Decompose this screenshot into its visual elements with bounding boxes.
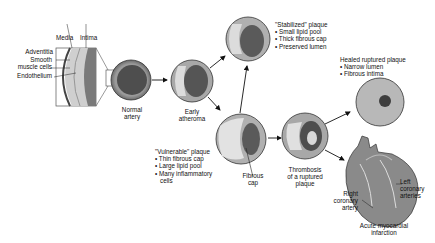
- label-media: Media: [56, 34, 73, 41]
- healed-bullet-1: Narrow lumen: [340, 63, 406, 70]
- healed-plaque-graphic: [356, 78, 404, 126]
- label-adventitia: Adventitia: [10, 48, 53, 55]
- right-coronary-line3: artery: [318, 204, 358, 211]
- stabilized-plaque-graphic: [226, 17, 270, 61]
- thrombosis-graphic: [282, 113, 328, 159]
- label-acute-mi: Acute myocardial infarction: [352, 222, 416, 236]
- label-vulnerable-plaque: "Vulnerable" plaque Thin fibrous cap Lar…: [155, 148, 212, 184]
- label-fibrous-cap: Fibrous cap: [231, 172, 275, 186]
- vulnerable-bullet-2: Large lipid pool: [155, 162, 212, 169]
- label-right-coronary: Right coronary artery: [318, 190, 358, 212]
- stabilized-bullet-3: Preserved lumen: [275, 43, 327, 50]
- atherosclerosis-diagram: Media Intima Adventitia Smooth muscle ce…: [0, 0, 435, 243]
- normal-line2: artery: [111, 113, 153, 120]
- vulnerable-bullet-3: Many inflammatory: [155, 170, 212, 177]
- inset-wall-section: [56, 48, 114, 106]
- label-endothelium: Endothelium: [5, 72, 52, 79]
- label-smooth-muscle-line1: Smooth: [5, 56, 52, 63]
- infarction-line2: infarction: [352, 229, 416, 236]
- healed-title: Healed ruptured plaque: [340, 56, 406, 63]
- left-coronary-line3: arteries: [400, 192, 425, 199]
- vulnerable-title: "Vulnerable" plaque: [155, 148, 212, 155]
- early-line2: atheroma: [170, 115, 214, 122]
- vulnerable-bullet-3-cont: cells: [155, 177, 212, 184]
- fibrous-cap-line1: Fibrous: [231, 172, 275, 179]
- stabilized-bullet-1: Small lipid pool: [275, 28, 327, 35]
- stabilized-bullet-2: Thick fibrous cap: [275, 35, 327, 42]
- label-smooth-muscle-line2: muscle cells: [5, 63, 52, 70]
- normal-line1: Normal: [111, 106, 153, 113]
- healed-bullet-2: Fibrous intima: [340, 70, 406, 77]
- label-normal-artery: Normal artery: [111, 106, 153, 120]
- vulnerable-plaque-graphic: [216, 114, 266, 177]
- normal-artery-graphic: [111, 60, 151, 100]
- label-smooth-muscle: Smooth muscle cells: [5, 56, 52, 70]
- label-stabilized-plaque: "Stabilized" plaque Small lipid pool Thi…: [275, 21, 327, 50]
- thrombosis-line2: of a ruptured: [280, 173, 330, 180]
- thrombosis-line3: plaque: [280, 180, 330, 187]
- thrombosis-line1: Thrombosis: [280, 166, 330, 173]
- vulnerable-bullet-1: Thin fibrous cap: [155, 155, 212, 162]
- label-left-coronary: Left coronary arteries: [400, 178, 425, 200]
- early-line1: Early: [170, 108, 214, 115]
- infarction-line1: Acute myocardial: [352, 222, 416, 229]
- label-intima: Intima: [80, 34, 97, 41]
- right-coronary-line1: Right: [318, 190, 358, 197]
- fibrous-cap-line2: cap: [231, 179, 275, 186]
- label-early-atheroma: Early atheroma: [170, 108, 214, 122]
- label-thrombosis: Thrombosis of a ruptured plaque: [280, 166, 330, 188]
- right-coronary-line2: coronary: [318, 197, 358, 204]
- label-healed-plaque: Healed ruptured plaque Narrow lumen Fibr…: [340, 56, 406, 78]
- early-atheroma-graphic: [171, 60, 213, 102]
- left-coronary-line1: Left: [400, 178, 425, 185]
- left-coronary-line2: coronary: [400, 185, 425, 192]
- stabilized-title: "Stabilized" plaque: [275, 21, 327, 28]
